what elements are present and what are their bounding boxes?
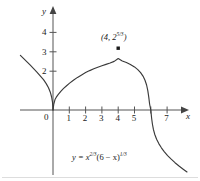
equation-exponent-2: 1/3 <box>120 151 127 157</box>
equation-label: y = x2/3(6 − x)1/3 <box>72 152 127 161</box>
x-tick-label-4: 4 <box>115 114 120 123</box>
x-tick-label-2: 2 <box>83 114 88 123</box>
point-label-exponent: 5/3 <box>117 31 124 37</box>
maximum-point-label: (4, 25/3) <box>101 32 126 41</box>
equation-lhs: y = x <box>72 152 90 162</box>
y-axis <box>50 6 57 175</box>
y-axis-label: y <box>42 7 46 16</box>
x-axis-label: x <box>186 112 190 121</box>
point-label-open: (4, 2 <box>101 32 117 42</box>
y-tick-label-4: 4 <box>42 28 47 37</box>
x-tick-label-3: 3 <box>99 114 104 123</box>
y-tick-label-3: 3 <box>42 48 47 57</box>
x-tick-label-7: 7 <box>164 114 169 123</box>
figure-graph-of-function: y x 0 1 2 3 4 5 7 2 3 4 (4, 25/3) y = x2… <box>0 0 200 181</box>
x-tick-label-5: 5 <box>132 114 137 123</box>
y-axis-arrowhead <box>50 6 57 14</box>
point-label-close: ) <box>124 32 127 42</box>
equation-exponent-1: 2/3 <box>90 151 97 157</box>
origin-tick-label: 0 <box>44 113 49 122</box>
y-tick-label-2: 2 <box>42 67 47 76</box>
maximum-point-marker <box>117 47 120 50</box>
equation-middle: (6 − x) <box>97 152 120 162</box>
x-tick-label-1: 1 <box>67 114 72 123</box>
